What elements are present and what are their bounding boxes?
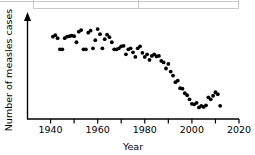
data-point: [79, 28, 83, 32]
data-point: [93, 38, 97, 42]
data-point: [209, 97, 213, 101]
data-point: [110, 40, 114, 44]
table-rule-vertical-end: [238, 0, 239, 9]
x-axis-tick-label: 1980: [133, 124, 157, 135]
data-point: [148, 58, 152, 62]
y-axis-label: Number of measles cases: [3, 9, 14, 132]
data-point: [185, 93, 189, 97]
data-point: [162, 61, 166, 65]
data-point: [157, 54, 161, 58]
data-point: [164, 67, 168, 71]
data-point: [188, 97, 192, 101]
y-axis: [24, 12, 31, 119]
scatter-plot-canvas: 19401960198020002020 Year Number of meas…: [0, 0, 255, 155]
table-rule-top: [0, 1, 239, 2]
data-point: [103, 37, 107, 41]
data-point: [171, 74, 175, 78]
data-point: [72, 34, 76, 38]
data-point: [96, 27, 100, 31]
table-rule-bottom: [34, 8, 238, 9]
x-axis-ticks: 19401960198020002020: [38, 119, 251, 135]
x-axis-tick-label: 1940: [38, 124, 62, 135]
data-point: [53, 33, 57, 37]
data-point: [195, 101, 199, 105]
data-point: [169, 70, 173, 74]
data-point: [218, 104, 222, 108]
data-point-group: [51, 27, 222, 109]
data-point: [141, 51, 145, 55]
x-axis-label: Year: [122, 141, 143, 152]
data-point: [181, 87, 185, 91]
data-point: [91, 46, 95, 50]
data-point: [131, 50, 135, 54]
data-point: [145, 52, 149, 56]
data-point: [204, 103, 208, 107]
data-point: [60, 47, 64, 51]
data-point: [98, 32, 102, 36]
data-point: [108, 35, 112, 39]
data-point: [89, 29, 93, 33]
data-point: [166, 62, 170, 66]
measles-cases-scatter-figure: 19401960198020002020 Year Number of meas…: [0, 0, 255, 155]
data-point: [176, 79, 180, 83]
data-point: [124, 52, 128, 56]
data-point: [216, 92, 220, 96]
data-point: [138, 44, 142, 48]
data-point: [129, 46, 133, 50]
data-point: [211, 94, 215, 98]
data-point: [133, 55, 137, 59]
data-point: [100, 46, 104, 50]
data-point: [84, 47, 88, 51]
data-point: [122, 44, 126, 48]
data-point: [75, 40, 79, 44]
x-axis-tick-label: 2000: [180, 124, 204, 135]
data-point: [56, 36, 60, 40]
x-axis-tick-label: 2020: [227, 124, 251, 135]
x-axis-tick-label: 1960: [86, 124, 110, 135]
